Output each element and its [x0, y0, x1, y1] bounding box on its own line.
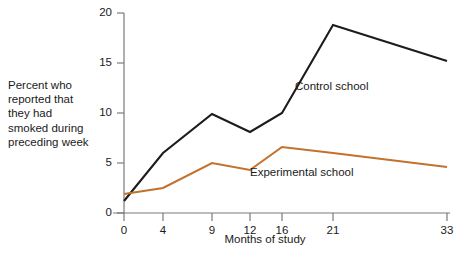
y-axis-title-line-4: smoked during — [8, 121, 104, 135]
y-axis-title-line-1: Percent who — [8, 78, 104, 92]
x-tick-label-33: 33 — [441, 225, 454, 237]
y-tick-label-0: 0 — [90, 207, 112, 219]
x-tick-label-0: 0 — [121, 225, 127, 237]
series-label-control-school: Control school — [295, 80, 369, 92]
series-label-experimental-school: Experimental school — [250, 166, 354, 178]
y-tick-label-15: 15 — [90, 57, 112, 69]
y-axis-title-line-2: reported that — [8, 92, 104, 106]
y-tick-label-20: 20 — [90, 7, 112, 19]
y-axis-ticks — [117, 13, 124, 213]
x-axis-title: Months of study — [175, 233, 355, 245]
y-axis-title-line-3: they had — [8, 106, 104, 120]
x-axis-ticks — [124, 213, 447, 221]
line-chart: 20 15 10 5 0 0 4 9 12 16 21 33 Percent w… — [0, 0, 463, 255]
x-tick-label-4: 4 — [160, 225, 166, 237]
y-axis-title-line-5: preceding week — [8, 135, 104, 149]
y-axis-title: Percent who reported that they had smoke… — [8, 78, 104, 149]
y-tick-label-5: 5 — [90, 157, 112, 169]
